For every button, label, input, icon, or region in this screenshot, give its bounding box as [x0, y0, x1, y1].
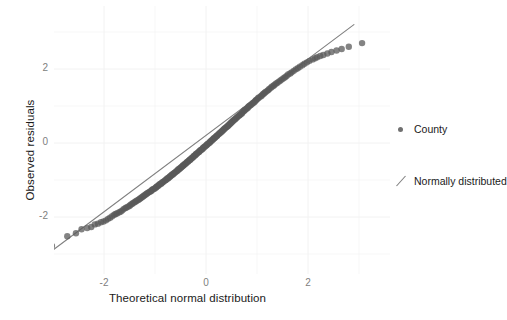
gridlines — [54, 6, 390, 274]
legend: County Normally distributed — [393, 112, 499, 202]
x-tick-label: 2 — [293, 277, 323, 288]
legend-item-normally-distributed: Normally distributed — [393, 172, 499, 190]
x-tick-label: 0 — [191, 277, 221, 288]
legend-label-normally-distributed: Normally distributed — [409, 175, 507, 187]
y-axis-title: Observed residuals — [24, 50, 36, 250]
plot-canvas — [54, 6, 390, 274]
x-tick-label: -2 — [89, 277, 119, 288]
data-points — [54, 40, 365, 249]
legend-item-county: County — [393, 120, 499, 138]
x-axis-title: Theoretical normal distribution — [0, 292, 375, 304]
plot-panel — [54, 6, 390, 274]
legend-point-marker-icon — [393, 121, 409, 137]
legend-line-marker-icon — [393, 173, 409, 189]
legend-label-county: County — [409, 123, 447, 135]
